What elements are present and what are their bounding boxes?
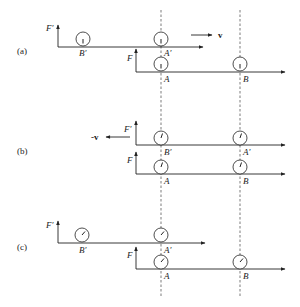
panel-label: (b) [17,146,28,156]
clock-icon [76,32,90,46]
clock-icon [75,228,89,242]
dashed-reference-lines [161,10,240,296]
clock-icon [233,131,247,145]
clock-label: B [243,176,249,186]
panel-b: (b) -v F′ B′ A′ F A B [17,121,285,186]
clock-icon [154,228,168,242]
clock-label: A [163,271,170,281]
clock-label: B′ [79,245,87,255]
clock-label: B [243,271,249,281]
clock-label: B [243,74,249,84]
clock-icon [154,255,168,269]
clock-icon [154,160,168,174]
f-prime-label: F′ [45,220,54,230]
f-prime-label: F′ [123,124,132,134]
panel-c: (c) F′ B′ A′ F A B [17,220,285,281]
clock-icon [154,131,168,145]
clock-label: A [163,74,170,84]
velocity-label: -v [91,132,99,142]
clock-icon [154,57,168,71]
f-label: F [126,155,133,165]
clock-icon [233,57,247,71]
f-prime-label: F′ [45,23,54,33]
panel-label: (c) [17,242,27,252]
relativity-clock-diagram: (a) F′ B′ A′ v F A B [0,0,300,307]
clock-label: A′ [163,48,172,58]
panel-a: (a) F′ B′ A′ v F A B [17,23,285,84]
clock-label: B′ [164,147,172,157]
clock-label: B′ [79,48,87,58]
clock-icon [233,255,247,269]
clock-label: A′ [163,245,172,255]
panel-label: (a) [17,46,27,56]
clock-label: A [163,176,170,186]
clock-icon [154,32,168,46]
velocity-label: v [218,30,223,40]
clock-label: A′ [242,147,251,157]
clock-icon [233,160,247,174]
f-label: F [126,250,133,260]
f-label: F [126,53,133,63]
